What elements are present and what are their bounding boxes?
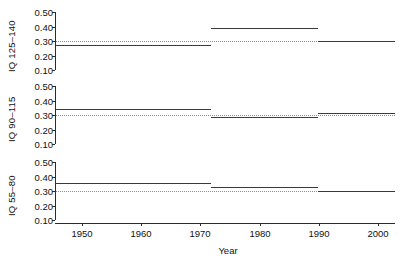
y-tick-label-2-1: 0.20 <box>22 200 53 211</box>
y-tick-label-2-3: 0.40 <box>22 171 53 182</box>
chart-figure: IQ 125–140 0.50 0.40 0.30 0.20 0.10 IQ 9… <box>0 0 408 262</box>
y-axis-label-panel-1: IQ 90–115 <box>6 97 17 142</box>
x-tick-label-1970: 1970 <box>189 228 210 239</box>
x-tick-label-2000: 2000 <box>367 228 388 239</box>
y-tick-label-0-2: 0.30 <box>22 36 53 47</box>
x-tick-label-1960: 1960 <box>130 228 151 239</box>
panel-iq-125-140: IQ 125–140 0.50 0.40 0.30 0.20 0.10 <box>0 0 408 76</box>
y-tick-label-2-4: 0.50 <box>22 157 53 168</box>
y-tick-label-1-3: 0.40 <box>22 95 53 106</box>
x-tick-label-1990: 1990 <box>308 228 329 239</box>
x-tick-mark <box>82 223 83 226</box>
x-tick-label-1980: 1980 <box>249 228 270 239</box>
data-segment <box>318 191 395 192</box>
data-segment <box>56 183 211 184</box>
y-tick-label-0-1: 0.20 <box>22 50 53 61</box>
x-tick-mark <box>260 223 261 226</box>
data-segment <box>211 28 318 29</box>
panel-iq-55-80: IQ 55–80 0.50 0.40 0.30 0.20 0.10 1950 1… <box>0 150 408 262</box>
y-tick-label-0-4: 0.50 <box>22 7 53 18</box>
y-tick-label-1-0: 0.10 <box>22 139 53 150</box>
data-segment <box>318 113 395 114</box>
y-tick-label-1-4: 0.50 <box>22 81 53 92</box>
data-segment <box>211 187 318 188</box>
y-tick-label-0-3: 0.40 <box>22 21 53 32</box>
panel-iq-90-115: IQ 90–115 0.50 0.40 0.30 0.20 0.10 <box>0 74 408 150</box>
y-axis-label-panel-2: IQ 55–80 <box>6 175 17 216</box>
y-tick-mark <box>52 220 55 221</box>
data-segment <box>56 45 211 46</box>
y-axis-label-panel-0: IQ 125–140 <box>6 20 17 72</box>
x-axis-line <box>55 223 395 224</box>
y-tick-label-1-2: 0.30 <box>22 110 53 121</box>
data-segment <box>318 41 395 42</box>
x-tick-mark <box>200 223 201 226</box>
data-segment <box>211 117 318 118</box>
x-axis-label: Year <box>218 245 237 256</box>
x-tick-label-1950: 1950 <box>71 228 92 239</box>
x-tick-mark <box>378 223 379 226</box>
y-tick-label-2-0: 0.10 <box>22 215 53 226</box>
x-tick-mark <box>319 223 320 226</box>
x-tick-mark <box>141 223 142 226</box>
data-segment <box>56 109 211 110</box>
y-tick-mark <box>52 144 55 145</box>
y-tick-label-2-2: 0.30 <box>22 186 53 197</box>
y-tick-label-1-1: 0.20 <box>22 124 53 135</box>
y-tick-mark <box>52 70 55 71</box>
